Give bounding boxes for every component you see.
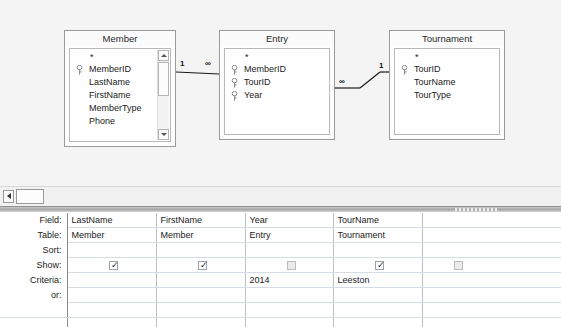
cell-field-3[interactable]: Year — [245, 213, 333, 228]
row-label-show: Show: — [0, 258, 67, 273]
cell-criteria-4[interactable]: Leeston — [333, 273, 422, 288]
cell-table-3[interactable]: Entry — [245, 228, 333, 243]
field-row-star[interactable]: * — [70, 52, 170, 63]
cell-blank-2-5[interactable] — [422, 318, 561, 327]
cell-blank-1-4[interactable] — [333, 303, 422, 318]
field-row-tourname[interactable]: TourName — [395, 76, 499, 89]
cell-or-3[interactable] — [245, 288, 333, 303]
cell-sort-4[interactable] — [333, 243, 422, 258]
cell-show-5[interactable] — [422, 258, 561, 273]
field-row-memberid[interactable]: MemberID — [225, 63, 329, 76]
cell-or-5[interactable] — [422, 288, 561, 303]
splitter-grip-icon — [455, 208, 499, 211]
join-line-entry-tournament[interactable] — [360, 72, 380, 88]
check-icon: ✓ — [111, 261, 119, 270]
cell-show-4[interactable]: ✓ — [333, 258, 422, 273]
cell-show-2[interactable]: ✓ — [156, 258, 245, 273]
table-box-entry[interactable]: Entry * MemberID — [219, 30, 335, 140]
cell-sort-5[interactable] — [422, 243, 561, 258]
cardinality-many-entry: ∞ — [205, 60, 211, 68]
field-row-tourid[interactable]: TourID — [395, 63, 499, 76]
triangle-down-icon — [161, 133, 167, 136]
cell-field-2[interactable]: FirstName — [156, 213, 245, 228]
scroll-left-button[interactable] — [3, 190, 14, 203]
scroll-down-button[interactable] — [158, 129, 169, 140]
field-label: MemberID — [89, 64, 131, 74]
primary-key-icon — [231, 63, 244, 77]
cell-table-5[interactable] — [422, 228, 561, 243]
field-row-membertype[interactable]: MemberType — [70, 102, 170, 115]
cell-show-3[interactable] — [245, 258, 333, 273]
field-list-member[interactable]: * MemberID LastName FirstName — [69, 48, 171, 142]
show-checkbox-5[interactable] — [454, 261, 463, 270]
cell-blank-2-2[interactable] — [156, 318, 245, 327]
field-row-star[interactable]: * — [395, 52, 499, 63]
cell-sort-1[interactable] — [67, 243, 156, 258]
qbe-row-show: Show: ✓ ✓ ✓ — [0, 258, 561, 273]
member-field-list-scrollbar[interactable] — [157, 50, 169, 140]
cell-blank-1-1[interactable] — [67, 303, 156, 318]
cell-table-4[interactable]: Tournament — [333, 228, 422, 243]
query-design-surface[interactable]: Member * MemberID LastName — [0, 0, 561, 186]
scroll-up-button[interactable] — [158, 50, 169, 61]
primary-key-icon — [76, 63, 89, 77]
field-row-phone[interactable]: Phone — [70, 115, 170, 128]
triangle-up-icon — [161, 54, 167, 57]
field-row-year[interactable]: Year — [225, 89, 329, 102]
cell-field-4[interactable]: TourName — [333, 213, 422, 228]
row-label-blank — [0, 303, 67, 318]
field-row-firstname[interactable]: FirstName — [70, 89, 170, 102]
cell-criteria-5[interactable] — [422, 273, 561, 288]
table-box-tournament[interactable]: Tournament * TourID TourName — [389, 30, 505, 140]
cell-table-2[interactable]: Member — [156, 228, 245, 243]
table-title-tournament: Tournament — [390, 31, 504, 46]
cell-table-1[interactable]: Member — [67, 228, 156, 243]
cell-blank-1-5[interactable] — [422, 303, 561, 318]
qbe-row-criteria: Criteria: 2014 Leeston — [0, 273, 561, 288]
field-list-tournament[interactable]: * TourID TourName TourType — [394, 48, 500, 135]
field-label: MemberID — [244, 64, 286, 74]
qbe-design-grid[interactable]: Field: LastName FirstName Year TourName … — [0, 213, 561, 327]
field-row-tourid[interactable]: TourID — [225, 76, 329, 89]
qbe-row-table: Table: Member Member Entry Tournament — [0, 228, 561, 243]
field-list-entry[interactable]: * MemberID — [224, 48, 330, 135]
cell-or-1[interactable] — [67, 288, 156, 303]
field-row-tourtype[interactable]: TourType — [395, 89, 499, 102]
cell-criteria-3[interactable]: 2014 — [245, 273, 333, 288]
cell-sort-3[interactable] — [245, 243, 333, 258]
cell-blank-1-2[interactable] — [156, 303, 245, 318]
cell-or-4[interactable] — [333, 288, 422, 303]
join-line-member-entry[interactable] — [176, 72, 219, 74]
cell-blank-1-3[interactable] — [245, 303, 333, 318]
cell-blank-2-1[interactable] — [67, 318, 156, 327]
cell-criteria-1[interactable] — [67, 273, 156, 288]
scrollbar-thumb[interactable] — [158, 62, 169, 96]
show-checkbox-1[interactable]: ✓ — [109, 261, 118, 270]
field-row-lastname[interactable]: LastName — [70, 76, 170, 89]
cell-sort-2[interactable] — [156, 243, 245, 258]
show-checkbox-2[interactable]: ✓ — [198, 261, 207, 270]
design-surface-horizontal-scrollbar[interactable] — [0, 186, 561, 207]
cell-field-1[interactable]: LastName — [67, 213, 156, 228]
field-label: TourType — [414, 90, 451, 100]
table-box-member[interactable]: Member * MemberID LastName — [64, 30, 176, 147]
field-label: TourName — [414, 77, 456, 87]
cell-blank-2-3[interactable] — [245, 318, 333, 327]
row-label-table: Table: — [0, 228, 67, 243]
show-checkbox-3[interactable] — [287, 261, 296, 270]
cell-show-1[interactable]: ✓ — [67, 258, 156, 273]
cell-criteria-2[interactable] — [156, 273, 245, 288]
table-title-entry: Entry — [220, 31, 334, 46]
field-label: MemberType — [89, 103, 142, 113]
primary-key-icon — [231, 76, 244, 90]
horizontal-scrollbar-thumb[interactable] — [16, 189, 44, 204]
field-row-star[interactable]: * — [225, 52, 329, 63]
row-label-sort: Sort: — [0, 243, 67, 258]
pane-splitter[interactable] — [0, 206, 561, 212]
field-row-memberid[interactable]: MemberID — [70, 63, 170, 76]
show-checkbox-4[interactable]: ✓ — [375, 261, 384, 270]
cell-or-2[interactable] — [156, 288, 245, 303]
cell-field-5[interactable] — [422, 213, 561, 228]
field-label: TourID — [244, 77, 271, 87]
cell-blank-2-4[interactable] — [333, 318, 422, 327]
